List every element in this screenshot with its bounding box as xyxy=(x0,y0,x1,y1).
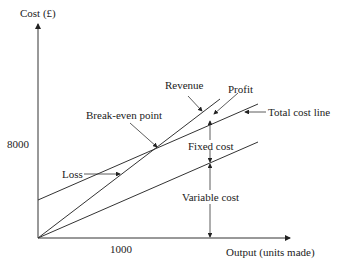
variable-cost-label: Variable cost xyxy=(182,192,239,203)
profit-arrow xyxy=(214,93,238,114)
profit-label: Profit xyxy=(228,84,253,95)
x-tick-label: 1000 xyxy=(110,244,132,255)
break-even-label: Break-even point xyxy=(86,110,162,121)
break-even-chart xyxy=(0,0,345,267)
y-tick-label: 8000 xyxy=(7,139,29,150)
x-axis-label: Output (units made) xyxy=(226,247,315,258)
total-cost-label: Total cost line xyxy=(268,107,330,118)
revenue-arrow xyxy=(188,96,202,111)
y-axis-label: Cost (£) xyxy=(20,8,56,19)
break-even-arrow xyxy=(130,123,157,147)
fixed-cost-label: Fixed cost xyxy=(188,141,234,152)
variable-cost-line xyxy=(38,142,258,238)
revenue-label: Revenue xyxy=(165,80,203,91)
loss-label: Loss xyxy=(62,169,83,180)
